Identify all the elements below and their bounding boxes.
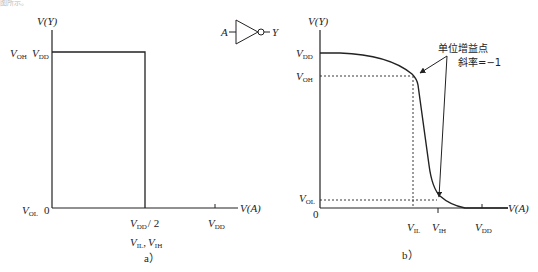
panel-a-voh-label: VOH — [10, 47, 27, 61]
panel-b-vdd-y-label: VDD — [296, 47, 313, 61]
panel-b-x-axis-label: V(A) — [508, 202, 529, 215]
panel-a-vol-label: VOL — [22, 204, 38, 218]
panel-a-vdd-half-label: VDD/ 2 — [130, 217, 159, 231]
cropped-text-fragment: 图所示。 — [0, 0, 28, 7]
panel-b-vih-label: VIH — [432, 221, 446, 235]
panel-b-origin-label: 0 — [313, 208, 319, 220]
panel-b-vil-label: VIL — [407, 221, 420, 235]
inverter-vtc-figure: 图所示。 V(Y) VOH VDD VOL 0 V(A) VDD/ 2 — [0, 0, 538, 272]
unity-gain-arrow-lower — [439, 56, 447, 197]
gate-output-label: Y — [272, 26, 280, 38]
panel-a-caption: a） — [144, 252, 160, 264]
panel-a-vdd-y-label: VDD — [32, 47, 49, 61]
panel-a-ideal-curve — [52, 52, 145, 208]
panel-a-vdd-x-label: VDD — [208, 217, 225, 231]
panel-b-voh-label: VOH — [296, 70, 313, 84]
gate-input-label: A — [220, 26, 228, 38]
panel-a-origin-label: 0 — [44, 204, 50, 216]
inverter-gate-symbol: A Y — [220, 20, 280, 44]
panel-b-vdd-x-label: VDD — [475, 221, 492, 235]
panel-b-real-vtc: 单位增益点 斜率=−1 V(Y) VDD VOH VOL 0 V(A) VIL … — [296, 15, 529, 261]
panel-b-vol-label: VOL — [299, 192, 315, 206]
unity-gain-point-label: 单位增益点 — [438, 42, 488, 54]
panel-a-ideal-vtc: V(Y) VOH VDD VOL 0 V(A) VDD/ 2 VIL,VIH V… — [10, 15, 261, 264]
panel-a-x-axis-label: V(A) — [240, 202, 261, 215]
unity-gain-arrow-upper — [420, 56, 447, 73]
slope-label: 斜率=−1 — [458, 56, 501, 68]
panel-a-vil-vih-label: VIL,VIH — [130, 236, 162, 250]
panel-b-caption: b） — [402, 249, 419, 261]
panel-b-y-axis-label: V(Y) — [308, 15, 329, 28]
inverter-triangle-icon — [236, 20, 258, 44]
panel-a-y-axis-label: V(Y) — [37, 15, 58, 28]
